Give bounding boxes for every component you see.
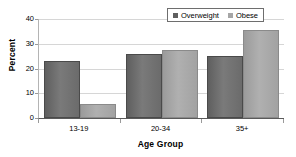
y-tick-label: 20 (18, 65, 34, 73)
y-tick-label: 0 (18, 114, 34, 122)
y-tick-label: 40 (18, 15, 34, 23)
bar-group (207, 19, 279, 118)
bar-obese-35plus (243, 30, 279, 118)
legend-entry-obese: Obese (228, 11, 258, 20)
bar-chart: Percent 010203040 13-1920-3435+ Age Grou… (0, 0, 296, 157)
y-tickmark (35, 118, 38, 119)
legend-label: Obese (236, 11, 258, 20)
legend-swatch-icon (228, 13, 233, 18)
bar-group (126, 19, 198, 118)
bar-obese-20-34 (162, 50, 198, 118)
legend-entry-overweight: Overweight (173, 11, 219, 20)
bar-overweight-20-34 (126, 54, 162, 118)
bar-group (44, 19, 116, 118)
x-tickmark (201, 119, 202, 123)
y-tick-label: 30 (18, 40, 34, 48)
y-tickmark (35, 93, 38, 94)
x-tick-label: 35+ (201, 124, 283, 133)
x-tick-label: 20-34 (120, 124, 202, 133)
legend-swatch-icon (173, 13, 178, 18)
bar-obese-13-19 (80, 104, 116, 118)
y-tickmark (35, 44, 38, 45)
chart-legend: OverweightObese (167, 8, 264, 22)
y-axis-tick-labels: 010203040 (17, 0, 34, 157)
bar-overweight-35plus (207, 56, 243, 118)
x-tickmark (38, 119, 39, 123)
y-axis-title: Percent (7, 20, 17, 90)
bars-layer (39, 19, 284, 118)
x-axis-title: Age Group (38, 139, 283, 149)
x-tick-label: 13-19 (38, 124, 120, 133)
x-tickmark (120, 119, 121, 123)
y-tickmark (35, 69, 38, 70)
x-tickmark (283, 119, 284, 123)
y-tickmark (35, 19, 38, 20)
plot-area (38, 19, 284, 119)
legend-label: Overweight (181, 11, 219, 20)
y-tick-label: 10 (18, 89, 34, 97)
bar-overweight-13-19 (44, 61, 80, 118)
